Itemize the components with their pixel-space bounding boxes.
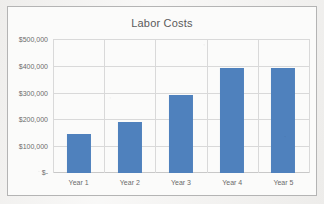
bar-year-4[interactable] bbox=[220, 68, 244, 173]
ytick-label-zero: $- bbox=[42, 169, 48, 176]
xtick-label-year-2: Year 2 bbox=[104, 179, 155, 186]
xtick-label-year-4: Year 4 bbox=[207, 179, 258, 186]
ytick-label-400000: $400,000 bbox=[19, 62, 48, 69]
xtick-label-year-5: Year 5 bbox=[258, 179, 309, 186]
ytick-label-200000: $200,000 bbox=[19, 116, 48, 123]
xtick-label-year-3: Year 3 bbox=[155, 179, 206, 186]
chart-title: Labor Costs bbox=[8, 17, 316, 29]
ytick-label-500000: $500,000 bbox=[19, 36, 48, 43]
plot-right-edge bbox=[309, 39, 310, 173]
bar-year-1[interactable] bbox=[67, 134, 91, 173]
ytick-label-300000: $300,000 bbox=[19, 89, 48, 96]
plot-area: $500,000 $400,000 $300,000 $200,000 $100… bbox=[53, 39, 309, 173]
bar-slot-year-3 bbox=[155, 39, 206, 173]
bar-slot-year-5 bbox=[258, 39, 309, 173]
chart-frame: Labor Costs $500,000 $400,000 $300,000 $… bbox=[7, 6, 317, 196]
scanned-page: Labor Costs $500,000 $400,000 $300,000 $… bbox=[0, 0, 324, 204]
bar-year-3[interactable] bbox=[169, 95, 193, 173]
bar-slot-year-4 bbox=[207, 39, 258, 173]
ytick-label-100000: $100,000 bbox=[19, 143, 48, 150]
bar-series bbox=[53, 39, 309, 173]
xtick-label-year-1: Year 1 bbox=[53, 179, 104, 186]
bar-year-5[interactable] bbox=[271, 68, 295, 173]
bar-slot-year-1 bbox=[53, 39, 104, 173]
x-axis-labels: Year 1 Year 2 Year 3 Year 4 Year 5 bbox=[53, 179, 309, 186]
bar-slot-year-2 bbox=[104, 39, 155, 173]
bar-year-2[interactable] bbox=[118, 122, 142, 173]
